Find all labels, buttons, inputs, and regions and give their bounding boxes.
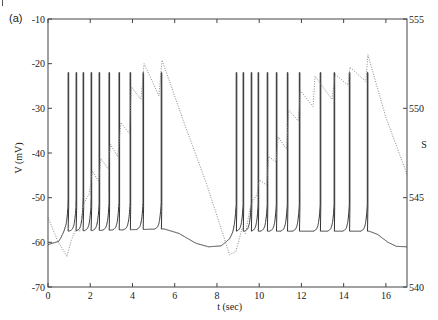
panel-label: (a) — [9, 12, 22, 24]
plot-frame — [48, 19, 407, 287]
x-axis-label: t (sec) — [217, 301, 242, 313]
x-tick-label: 12 — [296, 290, 306, 301]
y-left-tick-label: -60 — [32, 237, 45, 248]
y-left-tick-label: -20 — [32, 58, 45, 69]
x-tick-label: 6 — [172, 290, 177, 301]
y-right-tick-label: 545 — [409, 192, 424, 203]
y-axis-left-label: V (mV) — [13, 142, 25, 173]
y-left-tick-label: -10 — [32, 14, 45, 25]
x-tick-label: 4 — [130, 290, 135, 301]
figure: (a) 0246810121416-10-20-30-40-50-60-7055… — [0, 0, 438, 320]
voltage-trace — [48, 73, 407, 247]
x-tick-label: 2 — [88, 290, 93, 301]
s-trace — [48, 55, 407, 257]
y-right-tick-label: 550 — [409, 103, 424, 114]
plot-lines — [48, 55, 407, 257]
y-left-tick-label: -50 — [32, 192, 45, 203]
x-tick-label: 8 — [214, 290, 219, 301]
y-right-tick-label: 540 — [409, 282, 424, 293]
y-left-tick-label: -30 — [32, 103, 45, 114]
y-left-tick-label: -40 — [32, 148, 45, 159]
x-tick-label: 10 — [254, 290, 264, 301]
x-tick-label: 14 — [339, 290, 349, 301]
x-tick-label: 0 — [46, 290, 51, 301]
x-tick-label: 16 — [381, 290, 391, 301]
y-right-tick-label: 555 — [409, 14, 424, 25]
y-left-tick-label: -70 — [32, 282, 45, 293]
axis-ticks: 0246810121416-10-20-30-40-50-60-70555550… — [32, 14, 424, 302]
y-axis-right-label: S — [421, 139, 427, 150]
